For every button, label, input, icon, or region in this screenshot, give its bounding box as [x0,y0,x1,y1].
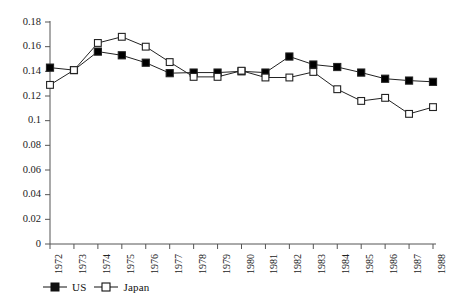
data-point-us-1972 [46,64,53,71]
y-axis-tick-label: 0.18 [0,17,41,28]
x-axis-tick-label: 1976 [150,254,160,274]
x-axis-tick-label: 1977 [174,254,184,274]
data-point-us-1988 [429,78,436,85]
data-point-us-1983 [310,61,317,68]
legend-label-japan: Japan [123,281,149,293]
x-axis-tick-label: 1982 [293,254,303,274]
data-point-japan-1988 [430,104,437,111]
y-axis-tick-label: 0.08 [0,140,41,151]
y-axis-tick-label: 0.06 [0,165,41,176]
data-point-japan-1973 [71,67,78,74]
y-axis-tick-label: 0.04 [0,189,41,200]
data-point-us-1974 [94,48,101,55]
x-axis-tick-label: 1974 [102,254,112,274]
data-point-us-1976 [142,59,149,66]
open-square-icon [93,281,119,293]
data-point-japan-1978 [190,73,197,80]
data-point-japan-1972 [47,82,54,89]
x-axis-tick-label: 1986 [389,254,399,274]
data-point-us-1975 [118,52,125,59]
y-axis-tick-label: 0.02 [0,214,41,225]
y-axis-tick-label: 0.14 [0,66,41,77]
x-axis-tick-label: 1988 [437,254,447,274]
data-point-japan-1974 [94,40,101,47]
y-axis-tick-label: 0.1 [0,115,41,126]
filled-square-icon [42,281,68,293]
x-axis-tick-label: 1979 [222,254,232,274]
data-point-japan-1979 [214,73,221,80]
data-point-japan-1983 [310,69,317,76]
series-line-us [50,52,433,82]
y-axis-tick-label: 0 [0,239,41,250]
data-point-japan-1981 [262,74,269,81]
data-point-japan-1976 [142,43,149,50]
data-point-japan-1986 [382,94,389,101]
data-point-japan-1987 [406,110,413,117]
data-point-japan-1985 [358,98,365,105]
data-point-us-1987 [405,77,412,84]
legend-item-japan: Japan [93,281,149,293]
y-axis-tick-label: 0.12 [0,91,41,102]
data-point-japan-1975 [118,33,125,40]
x-axis-tick-label: 1980 [246,254,256,274]
legend-label-us: US [72,281,86,293]
data-point-japan-1980 [238,67,245,74]
data-point-japan-1982 [286,74,293,81]
x-axis-tick-label: 1981 [269,254,279,274]
data-point-japan-1977 [166,59,173,66]
x-axis-tick-label: 1978 [198,254,208,274]
x-axis-tick-label: 1985 [365,254,375,274]
data-point-us-1984 [334,63,341,70]
chart-figure: 00.020.040.060.080.10.120.140.160.18 197… [0,0,467,306]
data-point-us-1977 [166,70,173,77]
data-point-us-1986 [382,75,389,82]
x-axis-tick-label: 1973 [78,254,88,274]
chart-legend: US Japan [42,281,150,293]
legend-item-us: US [42,281,86,293]
x-axis-tick-label: 1975 [126,254,136,274]
data-point-japan-1984 [334,86,341,93]
data-point-us-1985 [358,69,365,76]
y-axis-tick-label: 0.16 [0,41,41,52]
x-axis-tick-label: 1987 [413,254,423,274]
x-axis-tick-label: 1983 [317,254,327,274]
data-point-us-1982 [286,53,293,60]
x-axis-tick-label: 1972 [54,254,64,274]
x-axis-tick-label: 1984 [341,254,351,274]
